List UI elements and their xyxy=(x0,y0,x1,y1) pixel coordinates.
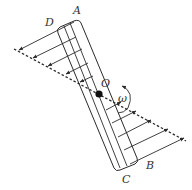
label-d: D xyxy=(44,16,54,29)
label-c: C xyxy=(122,173,131,186)
velocity-arrow xyxy=(80,76,93,82)
rotating-bar-diagram: A D O ω B C xyxy=(0,0,192,190)
velocity-arrow xyxy=(112,111,136,123)
velocity-arrow xyxy=(124,129,168,150)
label-b: B xyxy=(145,159,154,172)
velocity-arrow xyxy=(130,138,184,164)
velocity-arrow xyxy=(118,120,151,137)
label-o: O xyxy=(101,77,110,90)
label-a: A xyxy=(72,4,81,17)
velocity-arrow xyxy=(66,63,88,74)
label-omega: ω xyxy=(118,92,127,105)
pivot-point-o xyxy=(95,90,102,97)
